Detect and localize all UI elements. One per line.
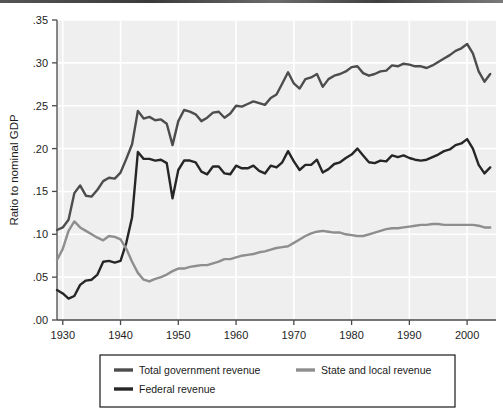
y-tick-label: .15 [33,185,48,197]
y-tick-label: .10 [33,228,48,240]
legend-label-federal-revenue: Federal revenue [139,383,216,395]
y-tick-label: .00 [33,314,48,326]
y-tick-label: .05 [33,271,48,283]
y-axis-title: Ratio to nominal GDP [8,114,20,226]
y-tick-label: .35 [33,14,48,26]
x-tick-label: 1960 [224,329,248,341]
x-tick-label: 1940 [108,329,132,341]
y-axis-ticks: .00.05.10.15.20.25.30.35 [33,14,57,326]
x-axis-ticks: 19301940195019601970198019902000 [51,320,480,341]
y-tick-label: .20 [33,143,48,155]
x-tick-label: 2000 [455,329,479,341]
chart-canvas: .00.05.10.15.20.25.30.35 193019401950196… [0,0,503,419]
legend-label-total-government-revenue: Total government revenue [139,364,261,376]
x-tick-label: 1930 [51,329,75,341]
y-tick-label: .30 [33,57,48,69]
x-tick-label: 1950 [166,329,190,341]
y-tick-label: .25 [33,100,48,112]
legend-label-state-and-local-revenue: State and local revenue [321,364,431,376]
x-tick-label: 1990 [397,329,421,341]
x-tick-label: 1980 [339,329,363,341]
x-tick-label: 1970 [282,329,306,341]
revenue-ratio-chart: .00.05.10.15.20.25.30.35 193019401950196… [0,0,503,419]
legend-box [100,355,455,407]
chart-legend: Total government revenueState and local … [100,355,455,407]
